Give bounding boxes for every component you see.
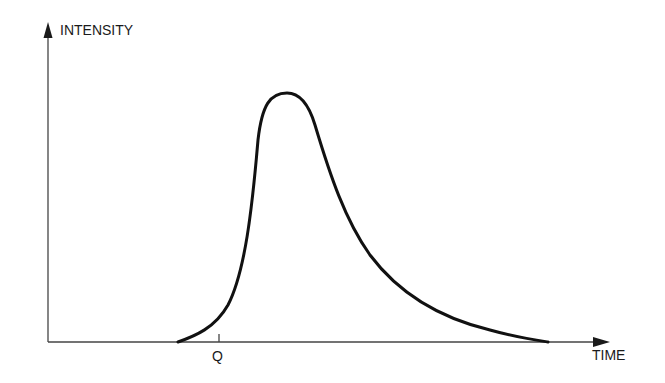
x-axis-label: TIME <box>592 347 625 363</box>
y-axis-arrow-icon <box>44 22 53 38</box>
intensity-curve <box>178 93 548 342</box>
y-axis-label: INTENSITY <box>60 22 133 38</box>
x-axis-arrow-icon <box>593 337 610 347</box>
q-tick-label: Q <box>212 348 223 364</box>
intensity-time-diagram <box>0 0 665 383</box>
